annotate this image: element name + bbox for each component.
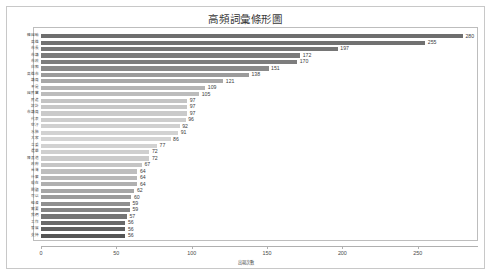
bar-value-label: 86: [173, 137, 179, 142]
x-axis-tick-label: 250: [413, 250, 422, 256]
bar[interactable]: [41, 214, 127, 218]
bar-category-label: 立委: [31, 144, 39, 148]
bar-value-label: 280: [465, 34, 474, 39]
bar[interactable]: [41, 79, 223, 83]
bar[interactable]: [41, 144, 157, 148]
bar-value-label: 255: [428, 40, 437, 45]
bar-category-label: 市政: [31, 60, 39, 64]
bar-value-label: 172: [303, 53, 312, 58]
bar-category-label: 可以: [31, 195, 39, 199]
bar-category-label: 議員: [31, 79, 39, 83]
bar-row[interactable]: 支持56: [41, 233, 478, 239]
bar-category-label: 政府: [31, 163, 39, 167]
bar[interactable]: [41, 189, 134, 193]
bar-value-label: 56: [128, 227, 134, 232]
bar-value-label: 59: [132, 201, 138, 206]
x-axis-tick-label: 50: [113, 250, 119, 256]
bar[interactable]: [41, 99, 187, 103]
x-axis-tick: [418, 246, 419, 249]
bar[interactable]: [41, 182, 137, 186]
bar-category-label: 陳其邁: [27, 157, 39, 161]
bar[interactable]: [41, 41, 425, 45]
bar-category-label: 韓國瑜: [27, 34, 39, 38]
bar[interactable]: [41, 221, 125, 225]
bar-value-label: 151: [271, 66, 280, 71]
x-axis-tick: [342, 246, 343, 249]
bar-value-label: 138: [251, 72, 260, 77]
bar-category-label: 白痴: [31, 67, 39, 71]
bar[interactable]: [41, 66, 269, 70]
bar-category-label: 高雄市: [27, 73, 39, 77]
bar[interactable]: [41, 169, 137, 173]
x-axis-tick: [116, 246, 117, 249]
bar-category-label: 工作: [31, 221, 39, 225]
x-axis-tick: [192, 246, 193, 249]
bar[interactable]: [41, 176, 137, 180]
bar[interactable]: [41, 111, 187, 115]
bar-value-label: 64: [140, 182, 146, 187]
bar-category-label: 支持: [31, 234, 39, 238]
bar[interactable]: [41, 137, 171, 141]
x-axis-tick-label: 150: [263, 250, 272, 256]
bar-category-label: 高雄: [31, 41, 39, 45]
bar-value-label: 97: [190, 104, 196, 109]
bar-category-label: 大家: [31, 137, 39, 141]
bar-value-label: 197: [340, 46, 349, 51]
bar[interactable]: [41, 105, 187, 109]
bar[interactable]: [41, 131, 178, 135]
x-axis-tick-label: 0: [40, 250, 43, 256]
bar[interactable]: [41, 118, 186, 122]
bar[interactable]: [41, 234, 125, 238]
bar[interactable]: [41, 163, 142, 167]
bar[interactable]: [41, 86, 205, 90]
bar-category-label: 水肺: [31, 131, 39, 135]
x-axis-tick-label: 200: [338, 250, 347, 256]
bar-category-label: 我們: [31, 215, 39, 219]
bar[interactable]: [41, 156, 149, 160]
bar-value-label: 92: [182, 124, 188, 129]
x-axis-tick-label: 100: [187, 250, 196, 256]
bar[interactable]: [41, 208, 130, 212]
x-axis-line: [41, 246, 478, 247]
bar-category-label: 民進: [31, 99, 39, 103]
bar[interactable]: [41, 34, 463, 38]
bar-category-label: 市議: [31, 54, 39, 58]
bar-value-label: 59: [132, 207, 138, 212]
bar[interactable]: [41, 92, 199, 96]
bar-value-label: 72: [152, 156, 158, 161]
bar[interactable]: [41, 195, 131, 199]
bar[interactable]: [41, 150, 149, 154]
bar-category-label: 設計: [31, 105, 39, 109]
chart-outer-frame: 高頻詞彙條形圖 韓國瑜280高雄255市長197市議172市政170白痴151高…: [6, 6, 485, 269]
bar-value-label: 60: [134, 195, 140, 200]
bar-category-label: 經濟: [31, 202, 39, 206]
bar-value-label: 109: [208, 85, 217, 90]
bar-value-label: 56: [128, 220, 134, 225]
bar-value-label: 57: [129, 214, 135, 219]
bar[interactable]: [41, 227, 125, 231]
bar-value-label: 56: [128, 233, 134, 238]
bar[interactable]: [41, 53, 300, 57]
bar[interactable]: [41, 202, 130, 206]
bar-series-container: 韓國瑜280高雄255市長197市議172市政170白痴151高雄市138議員1…: [41, 33, 478, 239]
bar-value-label: 97: [190, 111, 196, 116]
bar-category-label: 問題: [31, 189, 39, 193]
bar-value-label: 91: [181, 130, 187, 135]
bar-value-label: 121: [226, 79, 235, 84]
bar-value-label: 72: [152, 149, 158, 154]
bar-value-label: 105: [202, 92, 211, 97]
bar-value-label: 67: [144, 162, 150, 167]
bar-category-label: 發展: [31, 228, 39, 232]
x-axis-title: 出現次數: [7, 259, 484, 265]
bar-category-label: 什麼: [31, 176, 39, 180]
bar-category-label: 代表: [31, 118, 39, 122]
bar[interactable]: [41, 73, 249, 77]
bar[interactable]: [41, 60, 297, 64]
bar-category-label: 國民黨: [27, 92, 39, 96]
x-axis-tick: [41, 246, 42, 249]
bar[interactable]: [41, 47, 338, 51]
bar[interactable]: [41, 124, 180, 128]
bar-category-label: 台灣: [31, 170, 39, 174]
bar-value-label: 64: [140, 175, 146, 180]
bar-value-label: 77: [160, 143, 166, 148]
